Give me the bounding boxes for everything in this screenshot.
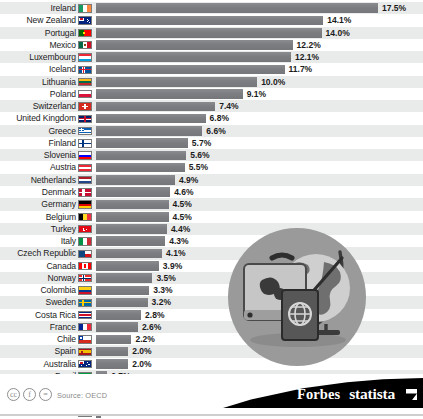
chart-row: Sweden3.2% [0,296,423,308]
value-bar [96,40,293,50]
value-label: 4.4% [171,223,190,235]
country-label: Netherlands [31,174,76,186]
value-bar [96,175,175,185]
country-label: Austria [50,161,76,173]
value-bar [96,261,159,271]
value-bar [96,335,131,345]
value-label: 5.6% [190,149,209,161]
country-label: Australia [43,358,76,370]
chart-row: Lithuania10.0% [0,76,423,88]
value-label: 4.3% [169,235,188,247]
value-bar [96,163,185,173]
chart-row: Luxembourg12.1% [0,51,423,63]
country-label: Costa Rica [35,309,76,321]
chart-row: Chile2.2% [0,333,423,345]
flag-portugal-icon [78,29,92,37]
value-bar [96,273,152,283]
flag-czech-republic-icon [78,250,92,258]
chart-footer: cc f = Source: OECD Forbes statista [0,374,423,416]
chart-row: France2.6% [0,321,423,333]
country-label: Iceland [49,63,76,75]
value-bar [96,200,169,210]
chart-row: Costa Rica2.8% [0,309,423,321]
value-bar [96,52,291,62]
flag-ireland-icon [78,4,92,12]
flag-spain-icon [78,348,92,356]
flag-chile-icon [78,335,92,343]
brand-logos: Forbes statista [297,385,417,403]
value-label: 4.5% [173,211,192,223]
statista-mark-icon [406,389,417,400]
chart-row: Turkey4.4% [0,223,423,235]
value-label: 17.5% [382,2,406,14]
value-bar [96,286,149,296]
country-label: Lithuania [42,76,76,88]
chart-row: Australia2.0% [0,358,423,370]
value-bar [96,16,323,26]
forbes-logo: Forbes [297,386,340,403]
bar-chart-plot: Ireland17.5%New Zealand14.1%Portugal14.0… [0,2,423,374]
country-label: Poland [50,88,76,100]
value-label: 12.2% [297,39,321,51]
value-label: 11.7% [289,63,313,75]
flag-canada-icon [78,262,92,270]
value-label: 3.9% [163,260,182,272]
value-bar [96,89,243,99]
value-label: 3.3% [153,284,172,296]
value-label: 4.6% [174,186,193,198]
value-label: 14.1% [327,14,351,26]
country-label: Czech Republic [17,247,76,259]
flag-germany-icon [78,200,92,208]
value-bar [96,249,162,259]
statista-logo: statista [349,385,395,403]
value-label: 6.6% [206,125,225,137]
value-label: 2.6% [142,321,161,333]
flag-denmark-icon [78,188,92,196]
value-label: 4.1% [166,247,185,259]
value-label: 5.7% [192,137,211,149]
chart-row: Italy4.3% [0,235,423,247]
country-label: Germany [41,198,76,210]
chart-row: Czech Republic4.1% [0,247,423,259]
chart-row: Portugal14.0% [0,27,423,39]
flag-sweden-icon [78,299,92,307]
value-bar [96,298,148,308]
value-label: 2.8% [145,309,164,321]
cc-noderivs-icon[interactable]: = [39,388,52,401]
country-label: Italy [61,235,76,247]
country-label: Finland [49,137,77,149]
value-label: 6.8% [210,112,229,124]
value-bar [96,151,186,161]
value-bar [96,310,141,320]
flag-norway-icon [78,274,92,282]
flag-lithuania-icon [78,78,92,86]
value-bar [96,236,165,246]
chart-row: Finland5.7% [0,137,423,149]
country-label: Belgium [46,211,76,223]
value-label: 2.0% [132,345,151,357]
flag-france-icon [78,323,92,331]
value-label: 3.2% [152,296,171,308]
flag-new-zealand-icon [78,16,92,24]
value-bar [96,114,206,124]
flag-belgium-icon [78,213,92,221]
value-label: 12.1% [295,51,319,63]
flag-austria-icon [78,164,92,172]
country-label: Spain [55,345,76,357]
country-label: Norway [47,272,76,284]
value-label: 4.5% [173,198,192,210]
country-label: United Kingdom [16,112,76,124]
flag-turkey-icon [78,225,92,233]
chart-row: Switzerland7.4% [0,100,423,112]
chart-row: Austria5.5% [0,161,423,173]
value-bar [96,126,202,136]
chart-row: Germany4.5% [0,198,423,210]
value-label: 3.5% [156,272,175,284]
value-bar [96,187,170,197]
chart-row: Iceland11.7% [0,63,423,75]
cc-license-icon[interactable]: cc [7,388,20,401]
creative-commons-icons: cc f = [7,388,52,401]
country-label: New Zealand [26,14,76,26]
cc-attribution-icon[interactable]: f [23,388,36,401]
value-bar [96,65,285,75]
